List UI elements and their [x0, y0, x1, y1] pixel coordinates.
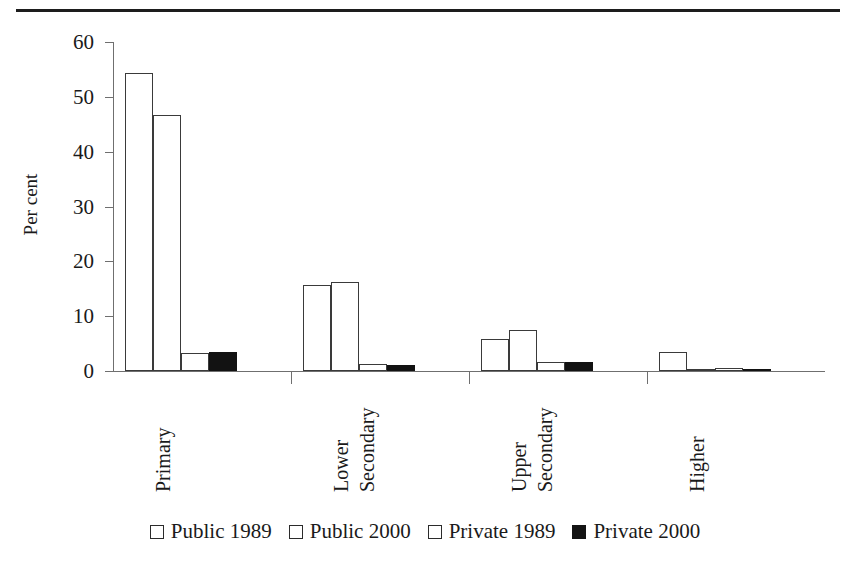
x-category-label: Lower	[329, 312, 355, 492]
bar	[565, 362, 593, 371]
group-separator-tick	[647, 371, 648, 384]
y-tick-label: 0	[84, 361, 95, 382]
legend-item: Public 1989	[150, 521, 272, 542]
y-tick-50: 50	[105, 97, 113, 98]
legend-item: Private 2000	[572, 521, 700, 542]
y-tick-label: 20	[73, 251, 94, 272]
x-category-label: Secondary	[355, 312, 381, 492]
y-tick-label: 40	[73, 141, 94, 162]
bar	[659, 352, 687, 371]
y-tick-label: 10	[73, 306, 94, 327]
x-category-label: Secondary	[533, 312, 559, 492]
y-tick-0: 0	[105, 371, 113, 372]
y-tick-60: 60	[105, 42, 113, 43]
bar-chart-figure: Per cent 0102030405060 PrimaryLowerSecon…	[0, 0, 850, 582]
bar	[181, 353, 209, 371]
y-tick-label: 60	[73, 32, 94, 53]
bar	[715, 368, 743, 371]
chart-legend: Public 1989Public 2000Private 1989Privat…	[0, 521, 850, 542]
y-tick-30: 30	[105, 207, 113, 208]
bar	[387, 365, 415, 371]
legend-swatch-open-icon	[289, 525, 303, 539]
bar	[209, 352, 237, 371]
y-tick-40: 40	[105, 152, 113, 153]
plot-area: 0102030405060	[113, 42, 825, 371]
legend-label: Public 1989	[171, 521, 272, 542]
y-axis-label: Per cent	[21, 145, 40, 265]
y-tick-20: 20	[105, 261, 113, 262]
x-category-label: Primary	[151, 312, 177, 492]
top-rule-divider	[16, 9, 840, 12]
y-tick-label: 50	[73, 86, 94, 107]
legend-label: Public 2000	[310, 521, 411, 542]
group-separator-tick	[291, 371, 292, 384]
bar	[481, 339, 509, 371]
group-separator-tick	[469, 371, 470, 384]
legend-item: Private 1989	[428, 521, 556, 542]
y-tick-10: 10	[105, 316, 113, 317]
legend-swatch-open-icon	[150, 525, 164, 539]
x-category-label: Higher	[685, 312, 711, 492]
legend-label: Private 2000	[593, 521, 700, 542]
y-tick-label: 30	[73, 196, 94, 217]
y-axis-line	[113, 42, 114, 372]
legend-swatch-filled-icon	[572, 525, 586, 539]
x-category-label: Upper	[507, 312, 533, 492]
legend-label: Private 1989	[449, 521, 556, 542]
legend-swatch-open-icon	[428, 525, 442, 539]
bar	[125, 73, 153, 371]
bar	[303, 285, 331, 371]
legend-item: Public 2000	[289, 521, 411, 542]
bar	[743, 369, 771, 371]
